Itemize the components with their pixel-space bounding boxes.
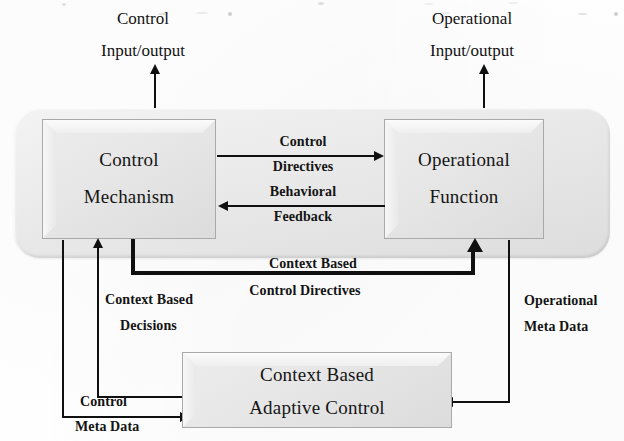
cbd-vertical (97, 246, 99, 398)
scan-speck (318, 2, 324, 5)
scan-speck (62, 3, 66, 6)
control-mechanism-line2: Mechanism (43, 187, 215, 207)
operational-function-line1: Operational (385, 150, 543, 170)
cbcd-arrowhead (467, 238, 483, 252)
behavioral-feedback-line (227, 205, 385, 207)
control-directives-line1: Control (279, 134, 326, 149)
adaptive-control-line2: Adaptive Control (183, 398, 451, 418)
scan-speck (424, 3, 433, 5)
scan-speck (228, 12, 232, 16)
cbcd-right-stem (471, 250, 475, 272)
cmd-line1: Control (80, 394, 127, 409)
diagram-canvas: Control Input/output Operational Input/o… (0, 0, 624, 441)
omd-line2: Meta Data (524, 319, 588, 334)
adaptive-control-line1: Context Based (183, 365, 451, 385)
node-control-mechanism[interactable]: Control Mechanism (42, 119, 216, 239)
operational-io-line2: Input/output (430, 42, 514, 60)
control-io-line2: Input/output (101, 42, 185, 60)
cmd-vertical (62, 240, 64, 417)
control-io-line1: Control (117, 10, 169, 28)
scan-speck (508, 2, 518, 4)
control-directives-line (217, 155, 375, 157)
cbd-line2: Decisions (120, 318, 177, 333)
operational-io-line1: Operational (432, 10, 512, 28)
control-directives-arrowhead (374, 151, 384, 161)
control-io-arrow-up (150, 64, 160, 74)
cbd-line1: Context Based (105, 292, 193, 307)
behavioral-feedback-line1: Behavioral (270, 184, 336, 199)
cbcd-line1: Context Based (269, 256, 357, 271)
control-directives-line2: Directives (273, 159, 334, 174)
control-mechanism-line1: Control (43, 150, 215, 170)
operational-io-arrow-up (479, 64, 489, 74)
behavioral-feedback-arrowhead (218, 201, 228, 211)
cbd-arrowhead (93, 238, 103, 248)
behavioral-feedback-line2: Feedback (274, 209, 332, 224)
omd-vertical (508, 240, 510, 403)
cbcd-bottom-run (131, 271, 475, 275)
cmd-horizontal (62, 416, 182, 418)
omd-line1: Operational (524, 293, 597, 308)
cbcd-line2: Control Directives (249, 283, 360, 298)
scan-speck (578, 13, 587, 15)
cbcd-left-stem (131, 239, 135, 275)
node-adaptive-control[interactable]: Context Based Adaptive Control (182, 352, 452, 428)
cmd-line2: Meta Data (75, 419, 139, 434)
scan-speck (614, 12, 618, 16)
scan-speck (196, 12, 208, 14)
omd-horizontal (452, 401, 510, 403)
operational-function-line2: Function (385, 187, 543, 207)
node-operational-function[interactable]: Operational Function (384, 119, 544, 239)
